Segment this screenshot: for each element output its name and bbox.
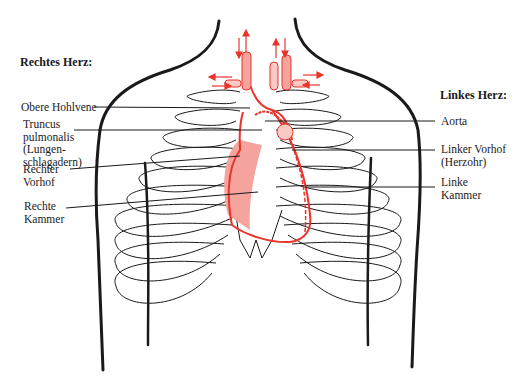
heart-anatomy-diagram: Rechtes Herz: Linkes Herz: Obere Hohlven…: [0, 0, 525, 387]
label-rechter-vorhof: Rechter Vorhof: [23, 163, 59, 188]
label-truncus-pulmonalis: Truncus pulmonalis (Lungen- schlagadern): [23, 118, 82, 168]
rib: [175, 109, 240, 125]
neck-left-line: [96, 21, 219, 370]
torso-left-line: [145, 163, 148, 345]
label-obere-hohlvene: Obere Hohlvene: [21, 101, 97, 114]
label-rechte-kammer: Rechte Kammer: [24, 200, 64, 225]
label-linke-kammer: Linke Kammer: [441, 176, 481, 201]
rib: [276, 204, 401, 236]
rib: [115, 223, 232, 258]
label-aorta: Aorta: [441, 115, 467, 128]
rib: [276, 185, 389, 214]
rib: [284, 223, 401, 258]
body-outline: [96, 19, 420, 370]
heading-right-heart: Rechtes Herz:: [20, 55, 92, 70]
rib: [115, 204, 240, 236]
vessel-left-top: [242, 52, 251, 90]
leader-obere-hohlvene: [94, 107, 250, 108]
vessel-right-top: [282, 55, 291, 90]
neck-right-line: [295, 19, 420, 367]
label-linker-vorhof: Linker Vorhof (Herzohr): [441, 143, 506, 168]
rib: [276, 90, 329, 104]
rib: [187, 90, 240, 104]
left-auricle: [277, 124, 293, 140]
rib: [127, 185, 240, 214]
vessel-mid-top: [270, 62, 278, 90]
heading-left-heart: Linkes Herz:: [440, 88, 507, 103]
ribcage: [115, 90, 401, 303]
rib: [163, 128, 240, 147]
